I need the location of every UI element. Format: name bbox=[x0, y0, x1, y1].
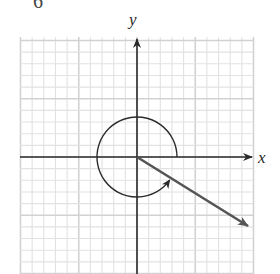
top-clipped-label: 6 bbox=[33, 0, 43, 12]
x-axis-label: x bbox=[257, 148, 266, 167]
y-axis-label: y bbox=[127, 10, 137, 29]
coordinate-plane-figure: 6 x y bbox=[0, 0, 280, 274]
